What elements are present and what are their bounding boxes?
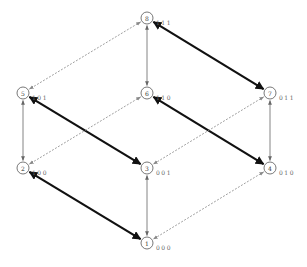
node-6: 6110: [141, 87, 172, 101]
node-binary-label: 110: [156, 94, 172, 101]
edge-8-7: [153, 22, 263, 89]
node-id-label: 2: [21, 165, 25, 172]
cube-diagram: 10002100300140105101611070118111: [0, 0, 307, 267]
node-id-label: 8: [145, 15, 149, 22]
node-2: 2100: [17, 162, 48, 176]
node-binary-label: 111: [156, 19, 172, 26]
node-binary-label: 101: [32, 94, 48, 101]
node-id-label: 3: [145, 165, 149, 172]
node-8: 8111: [141, 12, 172, 26]
edge-4-1: [153, 172, 263, 239]
node-binary-label: 001: [156, 169, 172, 176]
node-1: 1000: [141, 237, 172, 251]
node-id-label: 4: [268, 165, 272, 172]
edge-2-1: [29, 172, 140, 239]
node-id-label: 5: [21, 90, 25, 97]
node-id-label: 7: [268, 90, 272, 97]
node-binary-label: 100: [32, 169, 48, 176]
node-id-label: 1: [145, 240, 149, 247]
node-3: 3001: [141, 162, 172, 176]
edges-layer: [23, 22, 270, 239]
node-5: 5101: [17, 87, 48, 101]
nodes-layer: 10002100300140105101611070118111: [17, 12, 295, 251]
node-binary-label: 011: [279, 94, 295, 101]
node-4: 4010: [264, 162, 295, 176]
node-id-label: 6: [145, 90, 149, 97]
edge-8-5: [29, 22, 140, 89]
node-binary-label: 010: [279, 169, 295, 176]
node-7: 7011: [264, 87, 295, 101]
node-binary-label: 000: [156, 244, 172, 251]
